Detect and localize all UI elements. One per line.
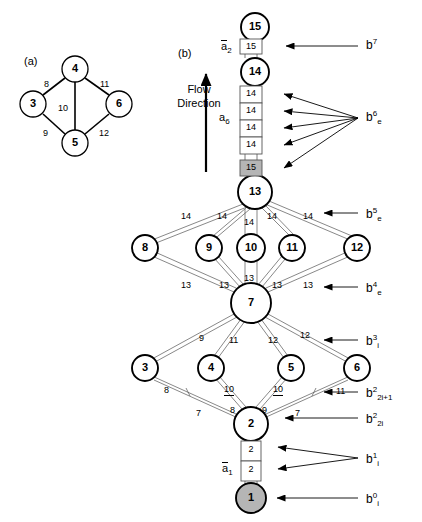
stack-cell-value: 15 [240,163,262,172]
b-label-b7: b7 [366,38,377,54]
node-b-10: 10 [240,242,262,253]
edge-label: 12 [300,331,310,340]
b-label-sub: 2i [377,419,383,428]
edge-label: 14 [217,212,227,221]
edge-label: 13 [303,281,313,290]
b-label-base: b [366,386,373,400]
a-label-a1: a1 [222,462,233,477]
b-label-base: b [366,452,373,466]
a-label-a6: a6 [219,112,230,126]
a-label-a2-sub: 2 [227,46,231,55]
node-b-4: 4 [204,362,218,373]
b-label-base: b [366,281,373,295]
edge-label: 8 [164,386,169,395]
stack-cell-value: 15 [240,42,262,51]
stack-cell-value: 14 [240,140,262,149]
node-a-5: 5 [68,137,82,148]
stack-cell-value: 2 [241,445,261,454]
b-label-base: b [366,492,373,506]
edge-label: 14 [244,218,254,227]
node-b-3: 3 [138,362,152,373]
edge-label: 13 [272,281,282,290]
a-label-a2: a2 [221,40,232,55]
edge-label: 13 [244,274,254,283]
b-label-b2-2i-plus-1: b22i+1 [366,386,393,402]
b-label-b5e: b5e [366,207,382,223]
node-b-7: 7 [244,297,258,308]
edge-label: 13 [181,281,191,290]
node-b-6: 6 [350,362,364,373]
b-label-base: b [366,110,373,124]
edge-label: 10 [224,385,234,396]
edge-label: 8 [230,406,235,415]
b-label-sub: 2i+1 [377,393,392,402]
b-label-sup: 7 [373,37,377,46]
edge-label-a-5-6: 12 [99,129,109,138]
b-label-base: b [366,412,373,426]
stack-cell-value: 14 [240,89,262,98]
b-label-base: b [366,38,373,52]
node-a-6: 6 [112,98,126,109]
flow-direction-line1: Flow [168,83,230,97]
edge-label-a-4-6: 11 [100,80,109,89]
stack-cell-value: 14 [240,106,262,115]
flow-direction-line2: Direction [168,97,230,111]
edge-label-a-3-5: 9 [43,129,48,138]
b-label-b4e: b4e [366,281,382,297]
flow-direction-label: Flow Direction [168,83,230,111]
stack-cell-value: 2 [241,465,261,474]
edge-label: 12 [268,336,278,345]
b-label-sub: e [377,214,381,223]
b-label-b3i: b3i [366,334,379,350]
figure-root: (a) (b) Flow Direction 4 3 6 5 8 11 10 9… [0,0,422,522]
node-a-3: 3 [26,98,40,109]
b-label-base: b [366,207,373,221]
edge-label: 9 [262,406,267,415]
panel-tag-b: (b) [178,48,191,59]
figure-canvas [0,0,422,522]
edge-label-a-3-4: 8 [44,80,49,89]
b-label-sub: e [377,288,381,297]
edge-label: 14 [267,212,277,221]
b-label-b6e: b6e [366,110,382,126]
node-b-2: 2 [244,418,258,429]
node-a-4: 4 [68,63,82,74]
node-b-14: 14 [244,66,266,77]
node-b-12: 12 [346,242,368,253]
b-label-arrows [277,46,358,498]
a-label-a1-sub: 1 [228,468,232,477]
edge-label: 13 [219,281,229,290]
panel-tag-a: (a) [24,56,37,67]
edge-label: 14 [181,212,191,221]
b-label-b1i: b1i [366,452,379,468]
stack-cell-value: 14 [240,123,262,132]
b-label-b2-2i: b22i [366,412,383,428]
b-label-b0i: b0i [366,492,379,508]
edge-label: 11 [336,387,345,396]
edge-label: 7 [196,409,201,418]
edge-label: 9 [199,334,204,343]
node-b-15: 15 [244,21,266,32]
b-label-sub: i [377,459,379,468]
b-label-sub: e [377,117,381,126]
b-label-base: b [366,334,373,348]
b-label-sub: i [377,341,379,350]
node-b-9: 9 [202,242,216,253]
edge-label: 14 [303,212,313,221]
edge-label: 7 [295,409,300,418]
b-label-sub: i [377,499,379,508]
node-b-13: 13 [244,186,266,197]
edge-label-a-4-5: 10 [58,104,68,113]
a-label-a6-sub: 6 [225,117,229,126]
node-b-8: 8 [138,242,152,253]
node-b-1: 1 [244,492,258,503]
node-b-11: 11 [281,242,303,253]
edge-label: 11 [229,336,238,345]
node-b-5: 5 [284,362,298,373]
edge-label: 10 [273,385,283,396]
